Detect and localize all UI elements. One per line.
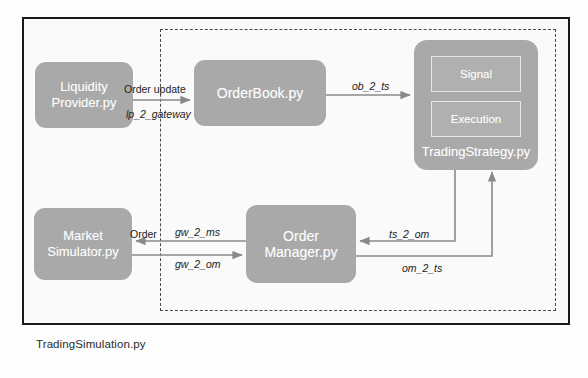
- node-order-book[interactable]: OrderBook.py: [194, 60, 326, 126]
- connector-label-gw-2-om: gw_2_om: [175, 258, 221, 270]
- node-order-manager[interactable]: Order Manager.py: [246, 205, 356, 283]
- connector-label-order-update: Order update: [124, 83, 186, 95]
- node-liquidity-provider-label: Liquidity Provider.py: [47, 79, 120, 111]
- node-trading-strategy[interactable]: Signal Execution TradingStrategy.py: [414, 40, 538, 170]
- connector-label-order: Order: [130, 228, 157, 240]
- node-market-simulator-label: Market Simulator.py: [43, 228, 123, 260]
- connector-label-ob-2-ts: ob_2_ts: [352, 80, 389, 92]
- connector-label-om-2-ts: om_2_ts: [402, 262, 442, 274]
- node-strategy-execution-label: Execution: [451, 111, 502, 127]
- node-strategy-signal-label: Signal: [460, 66, 492, 82]
- connector-label-ts-2-om: ts_2_om: [389, 228, 429, 240]
- connector-label-gw-2-ms: gw_2_ms: [175, 226, 220, 238]
- outer-container-label: TradingSimulation.py: [36, 338, 146, 350]
- node-order-book-label: OrderBook.py: [213, 85, 307, 101]
- node-order-manager-label: Order Manager.py: [260, 228, 341, 260]
- diagram-canvas: TradingSimulation.py Liquidity Provider.…: [0, 0, 588, 378]
- node-liquidity-provider[interactable]: Liquidity Provider.py: [35, 62, 133, 128]
- node-market-simulator[interactable]: Market Simulator.py: [34, 208, 132, 280]
- connector-label-lp-2-gateway: lp_2_gateway: [126, 108, 191, 120]
- node-strategy-signal[interactable]: Signal: [431, 56, 521, 92]
- node-trading-strategy-label: TradingStrategy.py: [414, 144, 538, 160]
- node-strategy-execution[interactable]: Execution: [431, 101, 521, 137]
